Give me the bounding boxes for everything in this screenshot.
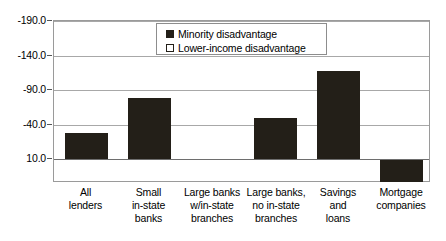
- legend-label: Lower-income disadvantage: [178, 42, 306, 54]
- gridline-190: [54, 21, 429, 22]
- y-tick-mark: [47, 89, 52, 90]
- bar-minority-savings-and-loans: [317, 71, 360, 159]
- y-tick-mark: [47, 55, 52, 56]
- gridline-140: [54, 56, 429, 57]
- x-category-mortgage-companies: Mortgage companies: [365, 186, 437, 212]
- y-tick-label: 10.0: [0, 153, 46, 164]
- y-tick-0: -190.0: [0, 15, 46, 26]
- legend: Minority disadvantage Lower-income disad…: [156, 23, 327, 55]
- x-category-large-banks-with-in-state-branches: Large banks w/in-state branches: [177, 186, 247, 225]
- bar-minority-small-in-state-banks: [128, 98, 171, 159]
- y-tick-2: -90.0: [0, 84, 46, 95]
- bar-minority-all-lenders: [65, 133, 108, 159]
- bar-minority-mortgage-companies: [380, 160, 423, 182]
- x-axis: All lenders Small in-state banks Large b…: [53, 186, 430, 238]
- y-tick-label: -190.0: [0, 15, 46, 26]
- y-tick-1: -140.0: [0, 50, 46, 61]
- legend-item-minority: Minority disadvantage: [166, 27, 326, 40]
- y-tick-4: 10.0: [0, 153, 46, 164]
- x-category-all-lenders: All lenders: [52, 186, 119, 212]
- legend-label: Minority disadvantage: [178, 28, 277, 40]
- gridline-40: [54, 125, 429, 126]
- legend-item-lower-income: Lower-income disadvantage: [166, 41, 326, 54]
- gridline-10-zero: [54, 159, 429, 160]
- y-tick-mark: [47, 20, 52, 21]
- y-axis: -190.0 -140.0 -90.0 -40.0 10.0: [0, 0, 46, 241]
- filled-square-icon: [166, 30, 174, 38]
- x-category-large-banks-no-in-state-branches: Large banks, no in-state branches: [241, 186, 311, 225]
- bar-chart: -190.0 -140.0 -90.0 -40.0 10.0: [0, 0, 446, 241]
- x-category-small-in-state-banks: Small in-state banks: [115, 186, 182, 225]
- gridline-90: [54, 90, 429, 91]
- y-tick-label: -40.0: [0, 119, 46, 130]
- open-square-icon: [166, 44, 174, 52]
- y-tick-mark: [47, 158, 52, 159]
- plot-area: Minority disadvantage Lower-income disad…: [53, 20, 430, 182]
- y-tick-3: -40.0: [0, 119, 46, 130]
- y-tick-label: -90.0: [0, 84, 46, 95]
- y-tick-label: -140.0: [0, 50, 46, 61]
- y-tick-mark: [47, 124, 52, 125]
- bar-minority-large-banks-no-in-state-branches: [254, 118, 297, 159]
- x-category-savings-and-loans: Savings and loans: [306, 186, 370, 225]
